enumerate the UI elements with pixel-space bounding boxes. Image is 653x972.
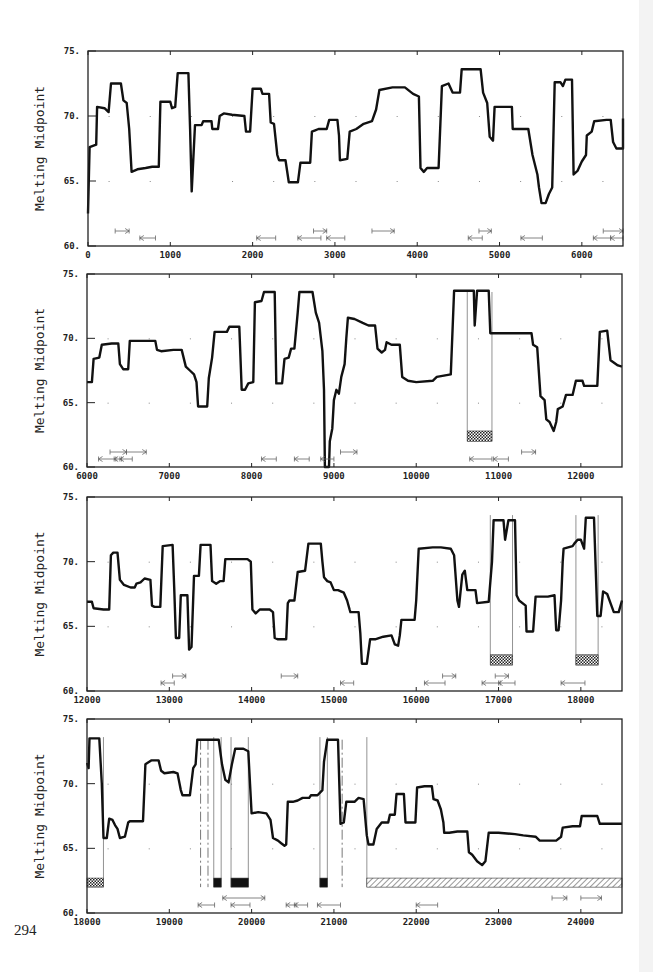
plot-frame xyxy=(88,51,623,246)
orf-arrow-left xyxy=(298,236,321,241)
orf-arrow-right xyxy=(314,229,327,234)
x-tick-label: 20000 xyxy=(238,917,265,927)
y-tick-label: 65. xyxy=(63,843,79,853)
orf-arrow-right xyxy=(603,229,623,234)
x-tick-label: 19000 xyxy=(156,917,183,927)
orf-arrow-right xyxy=(495,674,508,679)
checker-region-marker xyxy=(467,431,492,441)
chart-panel-3: Melting Midpoint60.65.70.75.120001300014… xyxy=(32,492,622,705)
orf-arrow-left xyxy=(321,457,334,462)
x-tick-label: 21000 xyxy=(320,917,347,927)
chart-panel-1: Melting Midpoint60.65.70.75.010002000300… xyxy=(32,46,623,260)
orf-arrow-left xyxy=(231,903,250,908)
x-tick-label: 11000 xyxy=(485,471,512,481)
y-tick-label: 75. xyxy=(63,714,79,724)
orf-arrow-right xyxy=(115,229,129,234)
y-tick-label: 60. xyxy=(64,241,80,251)
x-tick-label: 14000 xyxy=(238,695,265,705)
x-tick-label: 8000 xyxy=(241,471,263,481)
orf-arrow-right xyxy=(581,896,602,901)
orf-arrow-left xyxy=(482,681,500,686)
orf-arrow-left xyxy=(521,236,542,241)
orf-arrow-left xyxy=(294,457,309,462)
x-tick-label: 23000 xyxy=(485,917,512,927)
chart-panel-4: Melting Midpoint60.65.70.75.180001900020… xyxy=(32,714,622,927)
orf-arrow-right xyxy=(127,450,147,455)
orf-arrow-left xyxy=(593,236,610,241)
orf-arrow-left xyxy=(499,681,515,686)
x-tick-label: 18000 xyxy=(567,695,594,705)
melting-midpoint-trace xyxy=(87,738,622,865)
orf-arrow-left xyxy=(327,236,345,241)
orf-arrow-left xyxy=(317,903,340,908)
melting-profile-figure: Melting Midpoint60.65.70.75.010002000300… xyxy=(0,0,653,972)
x-tick-label: 15000 xyxy=(320,695,347,705)
y-tick-label: 70. xyxy=(63,779,79,789)
melting-midpoint-trace xyxy=(87,291,622,467)
x-tick-label: 3000 xyxy=(324,250,346,260)
x-tick-label: 17000 xyxy=(485,695,512,705)
orf-arrow-right xyxy=(281,674,297,679)
y-tick-label: 65. xyxy=(63,621,79,631)
orf-arrow-right xyxy=(479,229,491,234)
orf-arrow-right xyxy=(522,450,536,455)
orf-arrow-left xyxy=(424,681,445,686)
orf-arrow-right xyxy=(443,674,456,679)
x-tick-label: 16000 xyxy=(403,695,430,705)
y-tick-label: 75. xyxy=(63,492,79,502)
y-tick-label: 70. xyxy=(63,557,79,567)
orf-arrow-left xyxy=(470,457,492,462)
checker-region-marker xyxy=(490,655,512,665)
y-axis-label: Melting Midpoint xyxy=(32,308,47,433)
x-tick-label: 2000 xyxy=(242,250,264,260)
orf-arrow-left xyxy=(261,457,276,462)
checker-region-marker xyxy=(576,655,598,665)
x-tick-label: 9000 xyxy=(323,471,345,481)
orf-arrow-right xyxy=(173,674,186,679)
orf-arrow-left xyxy=(257,236,276,241)
orf-arrow-right xyxy=(110,450,126,455)
orf-arrow-left xyxy=(468,236,482,241)
x-tick-label: 24000 xyxy=(567,917,594,927)
hatch-region-marker xyxy=(367,878,622,887)
x-tick-label: 1000 xyxy=(159,250,181,260)
solid-region-marker xyxy=(231,878,248,887)
orf-arrow-left xyxy=(494,457,509,462)
y-axis-label: Melting Midpoint xyxy=(32,531,47,656)
orf-arrow-left xyxy=(561,681,585,686)
orf-arrow-left xyxy=(99,457,116,462)
x-tick-label: 0 xyxy=(85,250,90,260)
x-tick-label: 10000 xyxy=(403,471,430,481)
melting-midpoint-trace xyxy=(88,69,623,213)
x-tick-label: 4000 xyxy=(406,250,428,260)
x-tick-label: 6000 xyxy=(76,471,98,481)
melting-midpoint-trace xyxy=(87,518,622,664)
x-tick-label: 12000 xyxy=(73,695,100,705)
plot-frame xyxy=(87,497,622,691)
orf-arrow-left xyxy=(416,903,437,908)
y-axis-label: Melting Midpoint xyxy=(32,753,47,878)
x-tick-label: 18000 xyxy=(73,917,100,927)
orf-arrow-left xyxy=(198,903,214,908)
plot-frame xyxy=(87,274,622,467)
x-tick-label: 13000 xyxy=(156,695,183,705)
y-tick-label: 70. xyxy=(64,111,80,121)
orf-arrow-right xyxy=(552,896,567,901)
orf-arrow-right xyxy=(341,450,357,455)
x-tick-label: 7000 xyxy=(158,471,180,481)
orf-arrow-left xyxy=(140,236,156,241)
y-tick-label: 75. xyxy=(64,46,80,56)
y-tick-label: 70. xyxy=(63,333,79,343)
x-tick-label: 5000 xyxy=(489,250,511,260)
x-tick-label: 22000 xyxy=(403,917,430,927)
chart-panel-2: Melting Midpoint60.65.70.75.600070008000… xyxy=(32,269,622,481)
solid-region-marker xyxy=(320,878,327,887)
orf-arrow-both xyxy=(223,896,265,901)
orf-arrow-right xyxy=(372,229,394,234)
y-tick-label: 65. xyxy=(63,398,79,408)
orf-arrow-left xyxy=(611,236,623,241)
y-tick-label: 65. xyxy=(64,176,80,186)
y-axis-label: Melting Midpoint xyxy=(32,86,47,211)
x-tick-label: 12000 xyxy=(567,471,594,481)
x-tick-label: 6000 xyxy=(571,250,593,260)
